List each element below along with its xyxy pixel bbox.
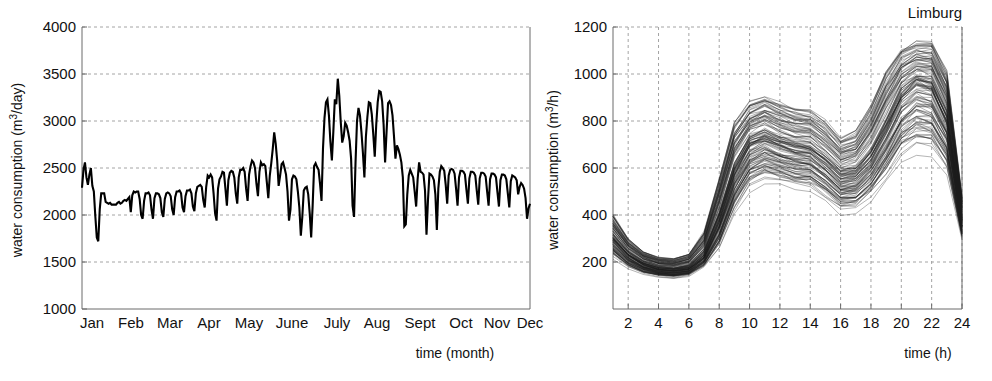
hourly-y-axis-title-pre: water consumption (m: [545, 112, 561, 251]
hourly-xtick-12: 12: [772, 314, 789, 331]
hourly-series-line: [613, 52, 962, 262]
daily-xtick-oct: Oct: [449, 314, 473, 331]
hourly-series-line: [613, 46, 962, 261]
hourly-series-line: [613, 92, 962, 272]
hourly-y-ticks: 200 400 600 800 1000 1200: [574, 18, 618, 270]
daily-ytick-2500: 2500: [43, 159, 76, 176]
daily-x-ticks: Jan Feb Mar Apr May June July Aug Sept O…: [80, 314, 544, 331]
daily-xtick-aug: Aug: [364, 314, 391, 331]
hourly-ytick-1200: 1200: [574, 18, 607, 35]
daily-xtick-feb: Feb: [118, 314, 144, 331]
daily-xtick-jan: Jan: [80, 314, 104, 331]
hourly-series-line: [613, 130, 962, 276]
hourly-series-line: [613, 142, 962, 276]
hourly-xtick-20: 20: [893, 314, 910, 331]
hourly-series-line: [613, 123, 962, 275]
water-consumption-figure: water consumption (m3/day): [0, 0, 992, 381]
daily-ytick-2000: 2000: [43, 206, 76, 223]
daily-ytick-4000: 4000: [43, 18, 76, 35]
hourly-series-line: [613, 81, 962, 270]
daily-consumption-chart: water consumption (m3/day): [0, 0, 540, 381]
hourly-ytick-1000: 1000: [574, 65, 607, 82]
hourly-series-line: [613, 46, 962, 260]
hourly-ytick-800: 800: [582, 112, 607, 129]
hourly-series-line: [613, 84, 962, 269]
svg-text:water consumption (m3/day): water consumption (m3/day): [8, 83, 25, 258]
daily-xtick-mar: Mar: [157, 314, 183, 331]
daily-ytick-3000: 3000: [43, 112, 76, 129]
daily-xtick-may: May: [235, 314, 264, 331]
hourly-y-axis-title-post: /h): [545, 90, 561, 106]
hourly-consumption-chart: Limburg water consumption (m3/h): [540, 0, 992, 381]
hourly-xtick-8: 8: [715, 314, 723, 331]
hourly-xtick-16: 16: [832, 314, 849, 331]
daily-ytick-3500: 3500: [43, 65, 76, 82]
hourly-series-line: [613, 107, 962, 273]
daily-chart-svg: water consumption (m3/day): [0, 0, 540, 381]
hourly-xtick-6: 6: [685, 314, 693, 331]
daily-xtick-apr: Apr: [197, 314, 220, 331]
hourly-series-line: [613, 92, 962, 271]
daily-x-axis-title: time (month): [416, 345, 495, 361]
daily-y-axis-title: water consumption (m3/day): [8, 83, 25, 258]
hourly-consumption-series-bundle: [613, 41, 962, 279]
daily-y-axis-title-post: /day): [9, 83, 25, 114]
daily-ytick-1500: 1500: [43, 253, 76, 270]
daily-gridlines: [82, 27, 530, 262]
svg-text:water consumption (m3/h): water consumption (m3/h): [544, 90, 561, 251]
hourly-x-ticks: 24681012141618202224: [624, 304, 970, 331]
daily-xtick-june: June: [276, 314, 309, 331]
hourly-series-line: [613, 45, 962, 259]
daily-ytick-1000: 1000: [43, 300, 76, 317]
hourly-x-axis-title: time (h): [904, 345, 951, 361]
hourly-series-line: [613, 122, 962, 275]
hourly-ytick-200: 200: [582, 253, 607, 270]
daily-y-axis-title-pre: water consumption (m: [9, 119, 25, 258]
hourly-chart-svg: Limburg water consumption (m3/h): [540, 0, 992, 381]
hourly-series-line: [613, 106, 962, 272]
hourly-chart-title: Limburg: [908, 4, 962, 21]
hourly-xtick-4: 4: [654, 314, 662, 331]
hourly-xtick-22: 22: [923, 314, 940, 331]
daily-xtick-nov: Nov: [484, 314, 511, 331]
hourly-xtick-24: 24: [954, 314, 971, 331]
daily-y-ticks: 1000 1500 2000 2500 3000 3500 4000: [43, 18, 87, 317]
hourly-y-axis-title: water consumption (m3/h): [544, 90, 561, 251]
daily-xtick-july: July: [324, 314, 351, 331]
hourly-xtick-18: 18: [863, 314, 880, 331]
hourly-ytick-400: 400: [582, 206, 607, 223]
hourly-xtick-2: 2: [624, 314, 632, 331]
hourly-xtick-10: 10: [741, 314, 758, 331]
hourly-ytick-600: 600: [582, 159, 607, 176]
daily-consumption-series: [82, 79, 530, 242]
hourly-xtick-14: 14: [802, 314, 819, 331]
daily-xtick-sept: Sept: [405, 314, 437, 331]
